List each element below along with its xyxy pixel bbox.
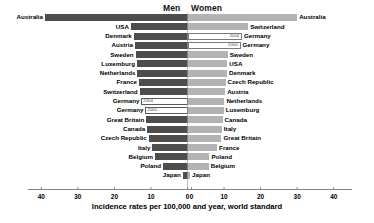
women-country-label: Netherlands [226,97,262,106]
bar-row: Great BritainCanada [0,115,374,124]
x-tick-women-10: 10 [220,193,227,200]
bar-row: ItalyFrance [0,143,374,152]
men-bar [134,33,188,40]
men-row-half: Denmark [0,32,188,41]
women-bar [188,172,191,179]
x-tick-women-40: 40 [330,193,337,200]
bar-row: AustraliaAustralia [0,13,374,22]
women-row-half: Italy [188,125,374,134]
women-row-half: 2004Germany [188,32,374,41]
men-row-half: Italy [0,143,188,152]
men-country-label: Luxemburg [101,60,135,69]
women-bar [188,51,228,58]
bar-row: SwitzerlandAustria [0,87,374,96]
men-bar [135,42,188,49]
men-row-half: USA [0,22,188,31]
men-bar [139,79,188,86]
men-row-half: Australia [0,13,188,22]
women-bar [188,163,209,170]
men-country-label: Austria [112,41,133,50]
men-row-half: 2004Germany [0,97,188,106]
men-row-half: 2000Germany [0,106,188,115]
women-row-half: Denmark [188,69,374,78]
men-country-label: Canada [123,125,145,134]
women-row-half: Japan [188,171,374,180]
men-bar [163,163,187,170]
bar-row: Austria2000Germany [0,41,374,50]
men-row-half: Austria [0,41,188,50]
women-row-half: Sweden [188,50,374,59]
x-tick-men-20: 20 [111,193,118,200]
men-row-half: Sweden [0,50,188,59]
women-country-label: Australia [299,13,325,22]
women-bar [188,23,249,30]
bar-rows-container: AustraliaAustraliaUSASwitzerlandDenmark2… [0,13,374,180]
x-tick-women-20: 20 [257,193,264,200]
bar-row: CanadaItaly [0,125,374,134]
men-row-half: Belgium [0,152,188,161]
men-row-half: Canada [0,125,188,134]
bar-row: 2000GermanyLuxemburg [0,106,374,115]
women-bar [188,79,226,86]
bar-row: Denmark2004Germany [0,32,374,41]
men-bar [155,153,188,160]
women-country-label: USA [229,60,242,69]
men-country-label: Belgium [129,153,153,162]
bar-row: SwedenSweden [0,50,374,59]
men-row-half: Netherlands [0,69,188,78]
men-bar [45,14,188,21]
women-country-label: Switzerland [250,23,284,32]
women-bar [188,14,298,21]
men-country-label: Switzerland [103,88,137,97]
men-bar [137,70,187,77]
women-bar-year-annotation: 2004 [229,33,239,39]
women-row-half: Belgium [188,162,374,171]
women-bar [188,126,222,133]
women-bar [188,60,228,67]
women-row-half: 2000Germany [188,41,374,50]
women-bar [188,153,210,160]
bar-row: Czech RepublicGreat Britain [0,134,374,143]
women-country-label: Czech Republic [228,78,274,87]
women-bar [188,98,225,105]
men-country-label: Great Britain [107,116,144,125]
men-country-label: Netherlands [100,69,136,78]
bar-row: FranceCzech Republic [0,78,374,87]
men-bar [137,60,187,67]
men-column-header: Men [163,3,180,13]
women-country-label: Denmark [229,69,255,78]
women-row-half: Poland [188,152,374,161]
men-bar [147,126,187,133]
women-country-label: Poland [211,153,232,162]
x-tick-men-30: 30 [74,193,81,200]
women-country-label: Austria [227,88,248,97]
men-bar [131,23,188,30]
men-country-label: USA [116,23,129,32]
men-country-label: Germany [113,97,140,106]
men-bar-year-annotation: 2000 [147,107,157,113]
men-country-label: Sweden [110,51,133,60]
women-row-half: Switzerland [188,22,374,31]
women-row-half: Australia [188,13,374,22]
men-bar [136,51,188,58]
women-country-label: Luxemburg [226,106,260,115]
women-row-half: Austria [188,87,374,96]
men-country-label: Japan [163,171,181,180]
women-country-label: Belgium [211,162,235,171]
women-country-label: Sweden [230,51,253,60]
women-bar [188,116,223,123]
x-axis-title: Incidence rates per 100,000 and year, wo… [0,202,374,211]
bar-row: USASwitzerland [0,22,374,31]
women-bar [188,144,218,151]
women-country-label: Great Britain [223,134,260,143]
men-country-label: Denmark [105,32,131,41]
men-bar-year-annotation: 2004 [143,98,153,104]
women-row-half: Canada [188,115,374,124]
x-tick-men-10: 10 [147,193,154,200]
women-bar [188,70,227,77]
bar-row: PolandBelgium [0,162,374,171]
women-row-half: Netherlands [188,97,374,106]
men-row-half: Luxemburg [0,59,188,68]
men-country-label: Australia [16,13,42,22]
men-country-label: Poland [140,162,161,171]
